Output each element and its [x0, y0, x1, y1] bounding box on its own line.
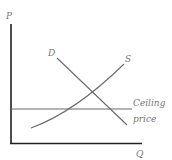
ceiling-label-line2: price: [133, 114, 156, 124]
supply-label: S: [125, 54, 131, 64]
demand-curve: [57, 58, 127, 125]
x-axis-label: Q: [136, 149, 144, 159]
demand-label: D: [47, 48, 55, 58]
ceiling-label-line1: Ceiling: [133, 98, 166, 108]
price-ceiling-diagram: P Q D S Ceiling price: [0, 0, 172, 160]
y-axis-label: P: [5, 11, 13, 21]
supply-curve: [31, 64, 124, 128]
